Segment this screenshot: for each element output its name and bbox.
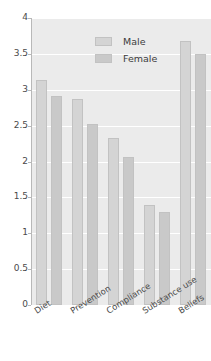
legend-label-female: Female — [123, 54, 157, 64]
y-axis-tick-mark — [28, 269, 31, 270]
y-axis-tick-label: 2.5 — [14, 121, 28, 130]
y-axis-tick-mark — [28, 162, 31, 163]
bar-female-diet[interactable] — [51, 96, 62, 306]
y-axis-tick-label: 1.5 — [14, 192, 28, 201]
y-axis-tick-mark — [28, 233, 31, 234]
bar-male-compliance[interactable] — [108, 138, 119, 305]
bar-group — [36, 18, 67, 305]
legend-item-male: Male — [95, 33, 157, 50]
bar-chart: 00.511.522.533.54 DietPreventionComplian… — [0, 0, 211, 361]
y-axis-tick-mark — [28, 54, 31, 55]
y-axis-line — [31, 18, 32, 305]
y-axis-tick-mark — [28, 197, 31, 198]
bar-male-diet[interactable] — [36, 80, 47, 305]
legend-item-female: Female — [95, 50, 157, 67]
y-axis-tick-mark — [28, 305, 31, 306]
bar-group — [180, 18, 211, 305]
bar-female-compliance[interactable] — [123, 157, 134, 305]
legend: Male Female — [95, 33, 157, 67]
y-axis-tick-mark — [28, 126, 31, 127]
y-axis-tick-mark — [28, 90, 31, 91]
y-axis-tick-label: 3.5 — [14, 49, 28, 58]
y-axis-tick-label: 0.5 — [14, 264, 28, 273]
bar-female-prevention[interactable] — [87, 124, 98, 305]
y-axis-tick-mark — [28, 18, 31, 19]
bar-male-beliefs[interactable] — [180, 41, 191, 305]
bar-male-prevention[interactable] — [72, 99, 83, 305]
legend-swatch-female-icon — [95, 54, 112, 63]
legend-swatch-male-icon — [95, 37, 112, 46]
bar-female-beliefs[interactable] — [195, 54, 206, 305]
legend-label-male: Male — [123, 37, 146, 47]
